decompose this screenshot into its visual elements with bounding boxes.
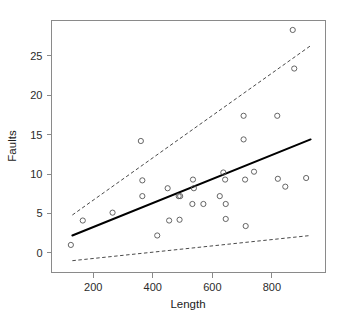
y-tick-label: 15 (30, 129, 42, 141)
y-tick-label: 25 (30, 50, 42, 62)
x-tick-label: 400 (144, 281, 162, 293)
y-tick-label: 5 (36, 207, 42, 219)
x-tick-label: 200 (84, 281, 102, 293)
y-tick-label: 20 (30, 89, 42, 101)
y-tick-label: 10 (30, 168, 42, 180)
x-axis-title: Length (170, 298, 205, 310)
y-axis-title: Faults (6, 130, 18, 162)
plot-canvas: 200400600800 0510152025 Length Faults (0, 0, 341, 321)
y-tick-label: 0 (36, 247, 42, 259)
scatter-plot-figure: 200400600800 0510152025 Length Faults (0, 0, 341, 321)
x-tick-label: 600 (203, 281, 221, 293)
x-tick-label: 800 (263, 281, 281, 293)
